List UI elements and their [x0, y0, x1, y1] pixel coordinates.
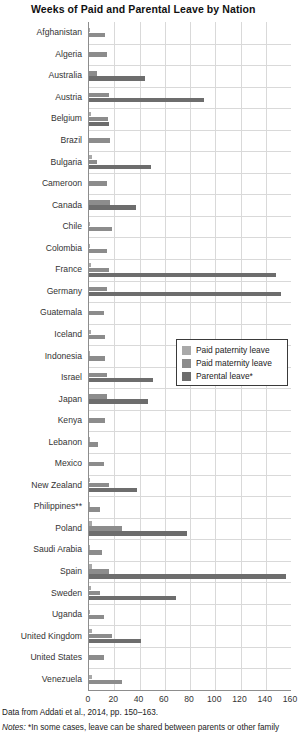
- bar-group: [89, 518, 291, 540]
- bar-group: [89, 216, 291, 238]
- bar-group: [89, 108, 291, 130]
- bar-paternity: [89, 545, 90, 549]
- y-axis-label: Uganda: [52, 609, 82, 619]
- y-axis-label: Guatemala: [40, 307, 82, 317]
- bar-paternity: [89, 28, 90, 32]
- legend-item: Paid maternity leave: [182, 358, 282, 368]
- x-axis-tick: 120: [232, 694, 246, 704]
- bar-parental: [89, 98, 204, 102]
- bar-paternity: [89, 564, 92, 568]
- x-axis-tick: 0: [86, 694, 91, 704]
- chart-title: Weeks of Paid and Parental Leave by Nati…: [31, 3, 256, 15]
- bar-parental: [89, 122, 109, 126]
- bar-parental: [89, 378, 153, 382]
- bar-maternity: [89, 462, 104, 466]
- y-axis-label: Australia: [49, 70, 82, 80]
- bar-group: [89, 604, 291, 626]
- y-axis-label: Indonesia: [45, 351, 82, 361]
- y-axis-label: Canada: [52, 200, 82, 210]
- bar-maternity: [89, 335, 105, 339]
- bar-group: [89, 453, 291, 475]
- bar-group: [89, 130, 291, 152]
- bar-paternity: [89, 222, 90, 226]
- y-axis-label: United Kingdom: [21, 631, 82, 641]
- bar-maternity: [89, 655, 104, 659]
- y-axis-label: Austria: [55, 92, 82, 102]
- bar-parental: [89, 76, 145, 80]
- bar-group: [89, 625, 291, 647]
- y-axis-label: France: [55, 264, 82, 274]
- bar-group: [89, 281, 291, 303]
- bar-paternity: [89, 244, 90, 248]
- bar-group: [89, 44, 291, 66]
- y-axis-label: Algeria: [55, 49, 82, 59]
- legend-label-parental: Parental leave*: [196, 371, 253, 381]
- bar-group: [89, 561, 291, 583]
- bar-group: [89, 259, 291, 281]
- source-note: Data from Addati et al., 2014, pp. 150–1…: [2, 708, 158, 717]
- bar-maternity: [89, 268, 109, 272]
- bar-group: [89, 22, 291, 44]
- bar-paternity: [89, 586, 91, 590]
- chart-figure: Weeks of Paid and Parental Leave by Nati…: [0, 0, 305, 734]
- bar-group: [89, 65, 291, 87]
- bar-paternity: [89, 263, 91, 267]
- bar-group: [89, 668, 291, 690]
- x-axis-tick: 20: [108, 694, 118, 704]
- y-axis-label: Colombia: [46, 243, 82, 253]
- bar-maternity: [89, 117, 108, 121]
- bar-paternity: [89, 437, 90, 441]
- legend-label-maternity: Paid maternity leave: [196, 358, 272, 368]
- y-axis-label: Chile: [62, 221, 82, 231]
- bar-maternity: [89, 227, 112, 231]
- bar-group: [89, 475, 291, 497]
- footnote-label: Notes:: [2, 723, 26, 732]
- y-axis-label: Kenya: [58, 415, 82, 425]
- y-axis-label: Venezuela: [42, 674, 82, 684]
- legend-label-paternity: Paid paternity leave: [196, 345, 270, 355]
- bar-maternity: [89, 373, 107, 377]
- x-axis-tick: 140: [258, 694, 272, 704]
- y-axis-label: Germany: [47, 286, 82, 296]
- legend-swatch-parental: [182, 372, 191, 381]
- y-axis-category-labels: AfghanistanAlgeriaAustraliaAustriaBelgiu…: [0, 22, 85, 690]
- y-axis-label: New Zealand: [31, 480, 82, 490]
- x-axis-tick-labels: 020406080100120140160: [0, 694, 305, 708]
- bar-group: [89, 173, 291, 195]
- bar-maternity: [89, 200, 110, 204]
- bar-maternity: [89, 311, 104, 315]
- bar-paternity: [89, 478, 90, 482]
- bar-maternity: [89, 181, 107, 185]
- bar-group: [89, 410, 291, 432]
- bar-maternity: [89, 591, 100, 595]
- y-axis-label: Sweden: [51, 588, 82, 598]
- y-axis-label: United States: [30, 652, 82, 662]
- bar-maternity: [89, 680, 122, 684]
- bar-group: [89, 237, 291, 259]
- bar-group: [89, 87, 291, 109]
- y-axis-label: Saudi Arabia: [33, 544, 82, 554]
- bar-maternity: [89, 507, 100, 511]
- bar-maternity: [89, 483, 109, 487]
- x-axis-tick: 80: [184, 694, 194, 704]
- bar-maternity: [89, 569, 109, 573]
- footnote: Notes: *In some cases, leave can be shar…: [2, 723, 279, 732]
- bar-parental: [89, 488, 137, 492]
- bar-parental: [89, 273, 276, 277]
- y-axis-label: Israel: [61, 372, 82, 382]
- bar-maternity: [89, 93, 109, 97]
- bar-paternity: [89, 521, 92, 525]
- bar-parental: [89, 596, 176, 600]
- bar-maternity: [89, 71, 97, 75]
- bar-group: [89, 151, 291, 173]
- y-axis-label: Bulgaria: [50, 157, 82, 167]
- bar-group: [89, 539, 291, 561]
- y-axis-label: Brazil: [61, 135, 83, 145]
- bar-maternity: [89, 634, 112, 638]
- bar-maternity: [89, 52, 107, 56]
- bar-paternity: [89, 629, 92, 633]
- bar-paternity: [89, 155, 92, 159]
- footnote-text: *In some cases, leave can be shared betw…: [26, 723, 280, 732]
- y-axis-label: Japan: [59, 394, 82, 404]
- y-axis-label: Philippines**: [34, 501, 82, 511]
